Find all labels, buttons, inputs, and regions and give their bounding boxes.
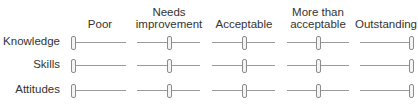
row-label: Skills — [0, 58, 60, 70]
slider-track[interactable] — [73, 65, 126, 66]
slider-thumb[interactable] — [167, 59, 172, 73]
slider-thumb[interactable] — [71, 84, 76, 98]
row-label: Attitudes — [0, 83, 60, 95]
slider-thumb[interactable] — [71, 36, 76, 50]
slider-thumb[interactable] — [242, 84, 247, 98]
row-label: Knowledge — [0, 35, 60, 47]
column-header-line1: Needs — [131, 6, 207, 18]
slider-thumb[interactable] — [167, 84, 172, 98]
slider-thumb[interactable] — [316, 36, 321, 50]
slider-track[interactable] — [360, 42, 411, 43]
slider-thumb[interactable] — [409, 59, 414, 73]
slider-track[interactable] — [360, 90, 411, 91]
slider-thumb[interactable] — [71, 59, 76, 73]
slider-thumb[interactable] — [242, 59, 247, 73]
slider-thumb[interactable] — [316, 84, 321, 98]
column-header-line1: More than — [280, 6, 356, 18]
slider-track[interactable] — [360, 65, 411, 66]
slider-thumb[interactable] — [242, 36, 247, 50]
slider-track[interactable] — [73, 90, 126, 91]
column-header-line2: Poor — [62, 18, 138, 30]
slider-thumb[interactable] — [316, 59, 321, 73]
slider-thumb[interactable] — [167, 36, 172, 50]
column-header-line2: Acceptable — [206, 18, 282, 30]
column-header-line2: improvement — [131, 18, 207, 30]
column-header-line2: acceptable — [280, 18, 356, 30]
column-header-line2: Outstanding — [348, 18, 418, 30]
slider-track[interactable] — [73, 42, 126, 43]
slider-thumb[interactable] — [409, 84, 414, 98]
slider-thumb[interactable] — [409, 36, 414, 50]
